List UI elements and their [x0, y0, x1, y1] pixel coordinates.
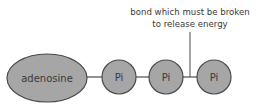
- adenosine-label: adenosine: [21, 73, 73, 84]
- phosphate-1-label: Pi: [115, 72, 124, 83]
- annotation-line-1: bond which must be broken: [130, 7, 249, 17]
- phosphate-2-label: Pi: [162, 72, 171, 83]
- atp-diagram: adenosine Pi Pi Pi bond which must be br…: [0, 0, 256, 111]
- phosphate-3-label: Pi: [210, 72, 219, 83]
- annotation-line-2: to release energy: [152, 19, 227, 29]
